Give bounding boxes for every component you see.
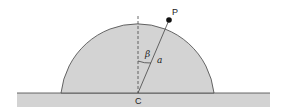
label-p: P (172, 7, 178, 17)
label-a: a (157, 55, 162, 65)
label-beta: β (144, 49, 150, 59)
point-p (166, 17, 172, 23)
hemisphere-diagram: P C β a (0, 0, 282, 110)
ground-strip (17, 93, 270, 107)
hemisphere (61, 24, 214, 93)
label-c: C (135, 96, 142, 106)
